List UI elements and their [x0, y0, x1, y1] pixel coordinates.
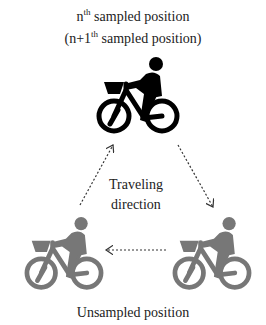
- traveling-direction-arrows: [0, 0, 266, 325]
- traveling-direction-label-line2: direction: [96, 196, 176, 214]
- traveling-direction-label-line1: Traveling: [96, 176, 176, 194]
- arrow-top-to-right: [178, 145, 213, 207]
- unsampled-position-label: Unsampled position: [0, 304, 266, 322]
